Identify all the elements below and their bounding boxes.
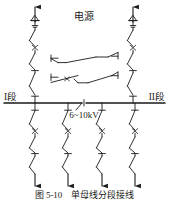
feeder1-line-c xyxy=(29,148,35,153)
feeder4-disconnector-1 xyxy=(129,111,135,124)
busbar xyxy=(4,100,165,110)
feeder1-bus-knife xyxy=(32,103,39,110)
figure-caption: 图 5-10单母线分段接线 xyxy=(0,189,169,201)
feeder4-line-c xyxy=(129,148,135,153)
feeder4-disconnector-2 xyxy=(129,137,135,148)
right-disconnector-1 xyxy=(127,30,133,41)
tie-upper-blade-left xyxy=(51,59,58,63)
right-incoming-line-d xyxy=(127,64,133,70)
outgoing-feeder-4 xyxy=(129,103,138,186)
left-incoming-line-d xyxy=(29,64,35,70)
feeder3-bus-knife xyxy=(99,103,106,110)
tie-lower-seg-c xyxy=(88,76,112,83)
tie-lower-left-knife xyxy=(51,74,58,81)
feeder2-line-d xyxy=(62,167,68,174)
feeder4-bus-knife xyxy=(132,103,139,110)
tie-circuit-lower xyxy=(51,72,118,83)
left-disconnector-2 xyxy=(29,53,35,64)
caption-text: 单母线分段接线 xyxy=(71,190,134,200)
bus-tie-switch xyxy=(76,100,84,110)
source-label: 电源 xyxy=(74,10,94,22)
left-incoming-feeder xyxy=(29,7,39,103)
bus-section-I-label: I段 xyxy=(4,91,17,102)
single-line-diagram: 电源 I段 II段 6~10kV 图 5-10单母线分段接线 xyxy=(0,0,169,201)
tie-lower-blade-right xyxy=(112,72,118,76)
tie-circuit-upper xyxy=(51,53,118,63)
schematic-svg: 电源 I段 II段 6~10kV xyxy=(0,0,169,201)
bus-section-II-label: II段 xyxy=(149,91,165,102)
right-bus-knife xyxy=(130,96,137,103)
left-bus-knife xyxy=(32,96,39,103)
feeder3-line-c xyxy=(96,148,102,153)
feeder1-line-d xyxy=(29,167,35,174)
right-disconnector-3 xyxy=(127,73,133,86)
feeder4-line-d xyxy=(129,167,135,174)
feeder2-disconnector-2 xyxy=(62,137,68,148)
feeder3-line-d xyxy=(96,167,102,174)
voltage-label: 6~10kV xyxy=(69,110,99,120)
right-disconnector-2 xyxy=(127,53,133,64)
right-incoming-feeder xyxy=(127,7,137,103)
feeder2-line-c xyxy=(62,148,68,153)
right-incoming-line-e xyxy=(127,86,133,95)
caption-number: 图 5-10 xyxy=(35,190,63,200)
tie-upper-seg-b xyxy=(66,57,96,63)
feeder2-disconnector-3 xyxy=(62,156,68,167)
feeder3-disconnector-2 xyxy=(96,137,102,148)
feeder1-disconnector-2 xyxy=(29,137,35,148)
feeder3-disconnector-3 xyxy=(96,156,102,167)
outgoing-feeder-1 xyxy=(29,103,38,186)
feeder4-disconnector-3 xyxy=(129,156,135,167)
left-incoming-line-e xyxy=(29,86,35,95)
left-disconnector-3 xyxy=(29,73,35,86)
feeder1-disconnector-1 xyxy=(29,111,35,124)
left-disconnector-1 xyxy=(29,30,35,41)
feeder1-disconnector-3 xyxy=(29,156,35,167)
feeder2-disconnector-1 xyxy=(62,111,68,124)
tie-lower-jog xyxy=(74,79,78,83)
